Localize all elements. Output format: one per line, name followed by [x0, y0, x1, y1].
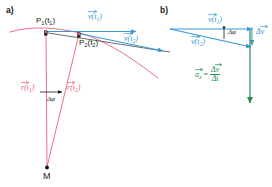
point-marker-p1 [44, 30, 47, 35]
velocity-label-v1-b: v (t1) [208, 16, 222, 24]
velocity-label-v2-b: v (t2) [191, 38, 205, 46]
p2-close: ) [95, 38, 98, 47]
radius-label-r2: r (t2) [67, 84, 80, 92]
v1a-glyph: v [88, 12, 92, 21]
r1-index: 1 [29, 87, 32, 93]
angle-label-delta-phi-a: Δφ [47, 96, 55, 103]
delta-v-glyph: v [261, 27, 265, 36]
point-marker-p2 [77, 32, 80, 37]
velocity-label-v1-a: v (t1) [88, 13, 102, 21]
r1-glyph: r [21, 83, 24, 92]
angle-label-delta-phi-b: Δφ [228, 29, 236, 36]
v2b-glyph: v [191, 37, 195, 46]
radius-label-r1: r (t1) [21, 84, 34, 92]
v1b-glyph: v [208, 15, 212, 24]
panel-b-label: b) [160, 6, 168, 15]
velocity-vector-v2-b [170, 29, 251, 47]
delta-v-label: Δ v [256, 28, 264, 36]
center-label-m: M [43, 172, 51, 181]
p1-close: ) [52, 16, 55, 25]
az-equals: = [201, 70, 210, 79]
az-num-glyph: v [216, 65, 220, 74]
point-label-p2: P2(t2) [79, 39, 98, 47]
point-marker-m [45, 166, 49, 170]
r2-glyph: r [67, 83, 70, 92]
v1b-index: 1 [216, 19, 219, 25]
v2a-index: 2 [132, 38, 135, 44]
velocity-label-v2-a: v (t2) [124, 35, 138, 43]
v2b-index: 2 [199, 41, 202, 47]
az-fraction: ΔvΔt [210, 66, 220, 84]
az-den-glyph: t [216, 74, 218, 83]
v1a-index: 1 [96, 16, 99, 22]
panel-a-label: a) [6, 6, 14, 15]
acceleration-formula: a z=ΔvΔt [195, 66, 220, 84]
v2a-glyph: v [124, 34, 128, 43]
physics-diagram-figure: a) b) P1(t1) P2(t2) v (t1) v (t2) r [0, 0, 272, 187]
point-label-p1: P1(t1) [36, 17, 55, 25]
az-denominator: Δt [210, 75, 220, 84]
r2-index: 2 [75, 87, 78, 93]
